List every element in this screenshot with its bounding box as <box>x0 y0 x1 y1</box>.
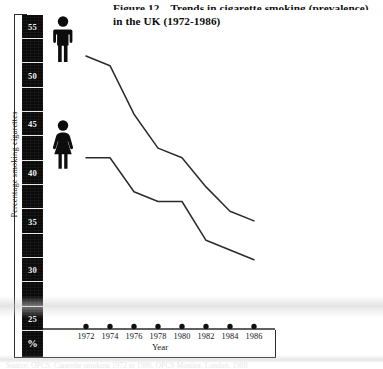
figure-root: Figure 12Trends in cigarette smoking (pr… <box>0 0 383 369</box>
x-axis-caption: Year <box>130 342 190 352</box>
series-line-women <box>86 158 254 260</box>
source-note: Source: OPCS, Cigarette smoking 1972 to … <box>6 361 306 368</box>
series-line-men <box>86 56 254 221</box>
chart-plot-area <box>0 0 383 369</box>
x-tick-label-1986: 1986 <box>239 332 269 341</box>
